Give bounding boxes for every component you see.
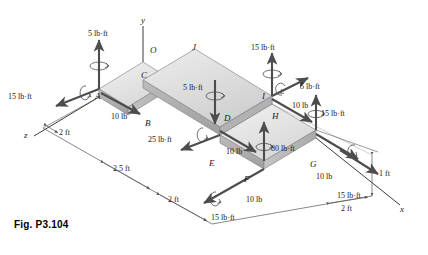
vector-couple-a-z: [56, 86, 99, 106]
point-label-F: F: [244, 175, 250, 184]
load-label-couple-g-vertical: 15 lb·ft: [321, 110, 345, 118]
load-label-couple-d: 5 lb·ft: [183, 84, 203, 92]
point-label-I: I: [262, 92, 265, 101]
axis-label-x: x: [400, 205, 404, 214]
load-label-couple-g-x: 15 lb·ft: [337, 192, 361, 200]
axis-label-y: y: [141, 16, 145, 25]
load-label-force-de: 10 lb: [226, 148, 242, 156]
point-label-H: H: [272, 112, 279, 121]
load-label-force-f: 10 lb: [246, 196, 262, 204]
load-label-couple-f-vertical: 80 lb·ft: [271, 145, 295, 153]
load-label-couple-a-vertical: 5 lb·ft: [88, 30, 108, 38]
dimension-label-1ft: 1 ft: [379, 170, 390, 178]
point-label-B: B: [145, 119, 151, 128]
vector-couple-a-vertical: [90, 40, 109, 89]
load-label-couple-i-vertical: 15 lb·ft: [251, 44, 275, 52]
load-label-force-ih: 10 lb: [292, 102, 308, 110]
load-label-couple-a-z: 15 lb·ft: [8, 93, 32, 101]
dimension-label-2ft-z: 2 ft: [59, 129, 70, 137]
load-label-force-ab: 10 lb: [111, 113, 127, 121]
point-label-G: G: [310, 160, 317, 169]
point-label-C: C: [141, 71, 147, 80]
dimension-label-2ft-lower: 2 ft: [168, 196, 179, 204]
load-label-couple-b: 25 lb·ft: [148, 136, 172, 144]
dimension-label-2p5ft: 2.5 ft: [113, 165, 130, 173]
load-label-couple-i-diag: 5 lb·ft: [300, 83, 320, 91]
point-label-D: D: [224, 114, 231, 123]
load-label-force-g: 10 lb: [316, 173, 332, 181]
figure-caption: Fig. P3.104: [14, 219, 68, 230]
figure-container: y x z O A B C D E F G H I J 5 lb·ft 15 l…: [0, 0, 428, 255]
vector-couple-i-vertical: [263, 53, 282, 96]
point-label-E: E: [209, 159, 215, 168]
dimension-label-2ft-x: 2 ft: [341, 205, 352, 213]
load-label-couple-f: 15 lb·ft: [211, 214, 235, 222]
point-label-A: A: [95, 92, 101, 101]
point-label-O: O: [150, 46, 157, 55]
axis-label-z: z: [24, 131, 28, 140]
point-label-J: J: [192, 43, 196, 52]
